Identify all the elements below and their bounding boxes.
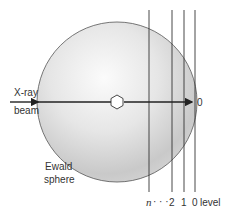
- hexagon-crystal-icon: [111, 95, 123, 109]
- sphere-label-line2: sphere: [44, 174, 75, 185]
- beam-label-line2: beam: [14, 105, 39, 116]
- sphere-label-line1: Ewald: [45, 161, 72, 172]
- level-2-label: 2: [169, 197, 175, 208]
- origin-label: 0: [197, 97, 203, 108]
- level-0-label: 0: [192, 197, 198, 208]
- level-dots: · · ·: [153, 196, 169, 207]
- level-n-label: n: [146, 196, 152, 208]
- beam-label-line1: X-ray: [14, 87, 38, 98]
- level-suffix-label: level: [200, 197, 221, 208]
- ewald-sphere-diagram: X-ray beam Ewald sphere 0 n · · · 2 1 0 …: [0, 0, 225, 213]
- level-1-label: 1: [181, 197, 187, 208]
